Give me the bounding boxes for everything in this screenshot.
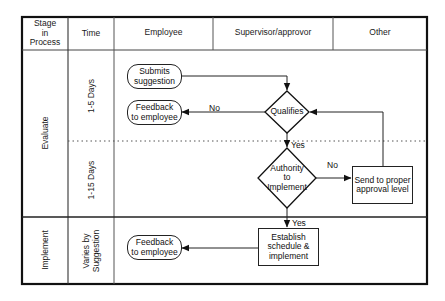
node-authority-to-implement: Authority to Implement: [258, 163, 316, 193]
header-lane-employee: Employee: [114, 17, 213, 48]
header-time: Time: [68, 17, 114, 50]
edge-label-no-authority: No: [327, 161, 338, 170]
node-feedback-employee-2: Feedback to employee: [127, 235, 182, 260]
node-establish-schedule: Establish schedule & implement: [258, 228, 319, 266]
stage-evaluate: Evaluate: [35, 88, 55, 178]
time-1-5-days: 1-5 Days: [81, 56, 101, 136]
header-stage: Stage in Process: [22, 17, 68, 50]
edge-label-no-qualifies: No: [209, 104, 220, 113]
time-varies: Varies by Suggestion: [80, 211, 102, 291]
swimlane-flowchart: Stage in Process Time Employee Superviso…: [0, 0, 445, 301]
node-feedback-employee-1: Feedback to employee: [127, 100, 182, 125]
header-lane-other: Other: [333, 17, 427, 48]
node-submits-suggestion: Submits suggestion: [127, 64, 182, 89]
edge-label-yes-authority: Yes: [292, 219, 306, 228]
edge-submits-qualifies: [181, 76, 287, 90]
node-qualifies: Qualifies: [262, 106, 312, 118]
time-1-15-days: 1-15 Days: [81, 140, 101, 220]
node-send-to-proper-approval: Send to proper approval level: [352, 166, 413, 204]
stage-implement: Implement: [35, 210, 55, 290]
edge-label-yes-qualifies: Yes: [291, 141, 305, 150]
header-lane-supervisor: Supervisor/approvor: [213, 17, 333, 48]
edge-send-qualifies: [310, 112, 383, 166]
